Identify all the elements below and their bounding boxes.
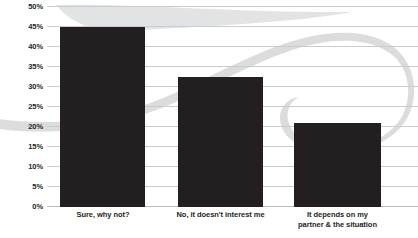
x-tick-label-1: No, it doesn't interest me: [163, 210, 278, 220]
x-tick-label-1-line-0: No, it doesn't interest me: [163, 210, 278, 220]
bar-it-depends: [294, 123, 381, 207]
bar-sure-why-not: [60, 27, 145, 207]
plot-area: [0, 0, 418, 238]
x-tick-label-2-line-0: It depends on my: [281, 210, 394, 220]
x-tick-label-0-line-0: Sure, why not?: [48, 210, 158, 220]
bar-chart: 50% 45% 40% 35% 30% 25% 20% 15% 10% 5% 0…: [0, 0, 418, 238]
x-tick-label-2: It depends on my partner & the situation: [281, 210, 394, 229]
x-tick-label-2-line-1: partner & the situation: [281, 220, 394, 230]
bar-no-not-interested: [178, 77, 263, 207]
x-tick-label-0: Sure, why not?: [48, 210, 158, 220]
